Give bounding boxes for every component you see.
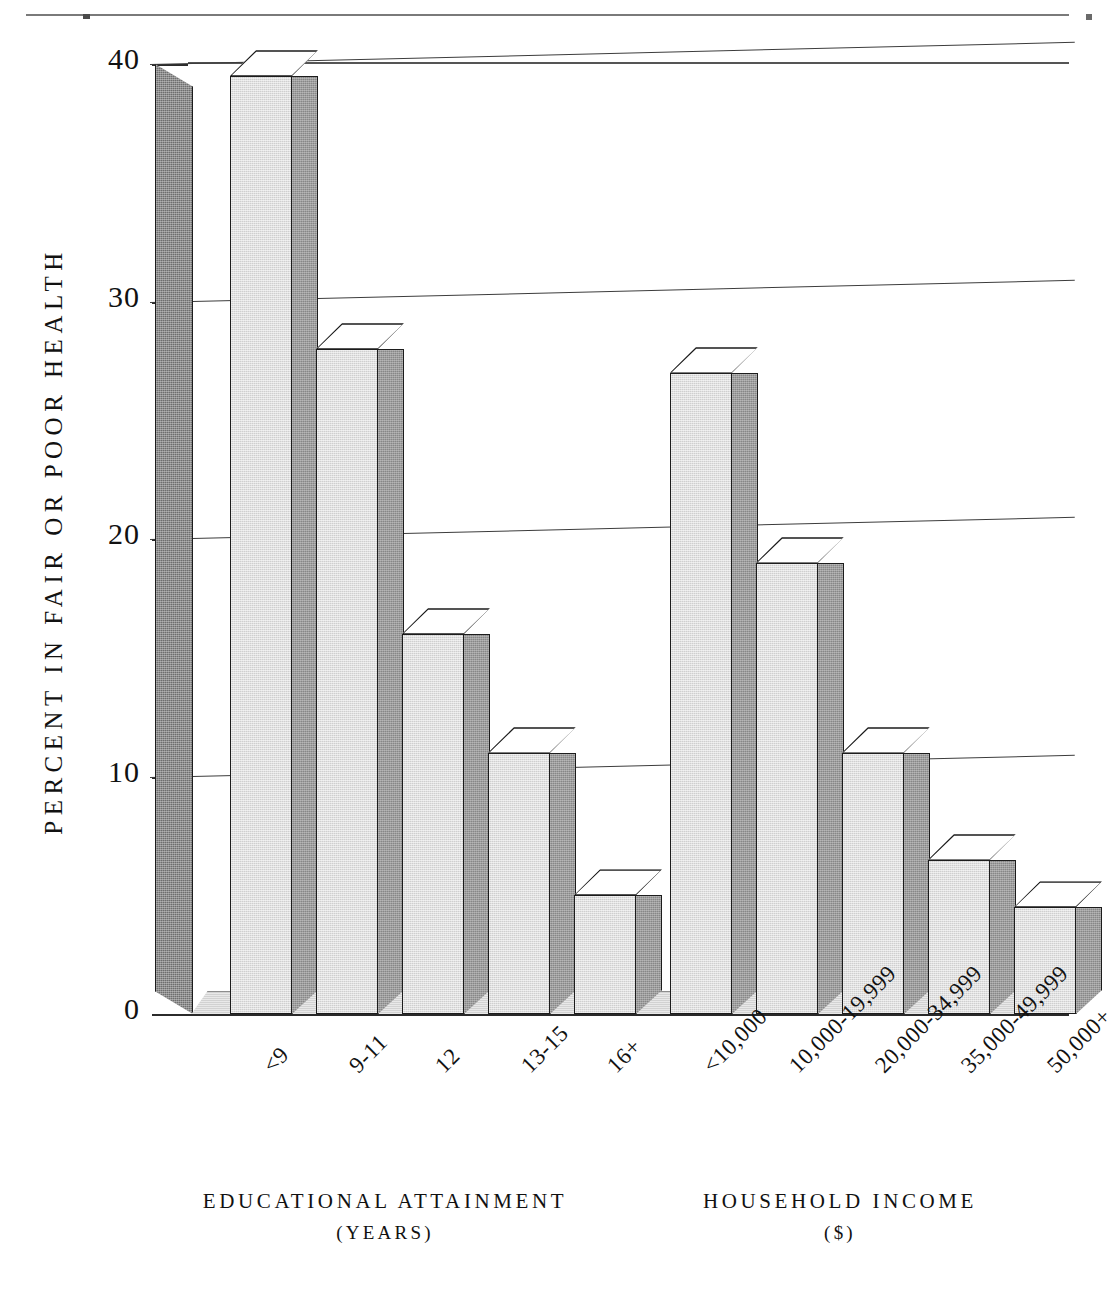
bar-side-face [818,563,844,1014]
group-caption-income: HOUSEHOLD INCOME ($) [640,1185,1040,1247]
bar-top-face [670,347,758,373]
x-label-education-2: 12 [430,1043,465,1078]
group-subtitle-income: ($) [640,1218,1040,1247]
plot-area [150,40,1069,1030]
bar-education-2[interactable] [402,634,464,1014]
y-tick-label-40: 40 [76,42,140,76]
group-caption-education: EDUCATIONAL ATTAINMENT (YEARS) [150,1185,620,1247]
x-label-education-4: 16+ [602,1033,647,1078]
y-tick-label-20: 20 [76,517,140,551]
bar-side-face [292,76,318,1014]
bar-education-1[interactable] [316,349,378,1014]
bar-education-0[interactable] [230,76,292,1014]
y-tick-label-0: 0 [76,992,140,1026]
bar-side-face [464,634,490,1014]
bar-side-face [732,373,758,1014]
y-tick-label-30: 30 [76,280,140,314]
bar-top-face [402,608,490,634]
group-subtitle-education: (YEARS) [150,1218,620,1247]
bar-top-face [230,50,318,76]
y-axis-title: PERCENT IN FAIR OR POOR HEALTH [40,91,68,991]
bar-income-1[interactable] [756,563,818,1014]
bar-side-face [378,349,404,1014]
bar-top-face [488,727,576,753]
x-label-education-0: <9 [258,1042,294,1078]
group-title-income: HOUSEHOLD INCOME [703,1189,977,1213]
bar-side-face [904,753,930,1014]
bar-income-0[interactable] [670,373,732,1014]
bar-front-face [316,349,378,1014]
bar-top-face [1014,881,1102,907]
bar-side-face [550,753,576,1014]
bar-side-face [990,860,1016,1014]
y-axis-wall-face [155,64,193,1014]
bar-front-face [488,753,550,1014]
bar-education-4[interactable] [574,895,636,1014]
y-tick-label-10: 10 [76,755,140,789]
bar-front-face [574,895,636,1014]
bar-front-face [670,373,732,1014]
bar-education-3[interactable] [488,753,550,1014]
bar-top-face [928,834,1016,860]
bar-top-face [574,869,662,895]
bar-front-face [230,76,292,1014]
bar-side-face [1076,907,1102,1014]
plot-top-border [188,62,1069,64]
x-label-education-1: 9-11 [344,1029,393,1078]
bar-top-face [316,323,404,349]
bar-top-face [842,727,930,753]
bar-top-face [756,537,844,563]
bar-front-face [402,634,464,1014]
bar-front-face [756,563,818,1014]
group-title-education: EDUCATIONAL ATTAINMENT [203,1189,567,1213]
